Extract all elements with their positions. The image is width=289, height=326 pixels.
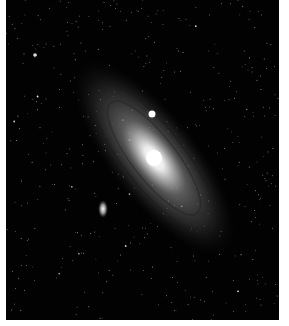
- star: [249, 279, 250, 280]
- star: [98, 272, 99, 273]
- star: [68, 2, 69, 3]
- star: [221, 3, 222, 4]
- star: [75, 232, 76, 233]
- star: [239, 162, 240, 163]
- star: [272, 228, 273, 229]
- star: [145, 63, 146, 64]
- star: [52, 131, 53, 132]
- star: [230, 81, 231, 82]
- star: [177, 282, 178, 283]
- star: [255, 250, 256, 251]
- star: [229, 86, 230, 87]
- star: [70, 246, 71, 247]
- star: [260, 299, 261, 300]
- star: [261, 305, 262, 306]
- star: [190, 297, 191, 298]
- star: [217, 53, 218, 54]
- star: [17, 38, 18, 39]
- star: [98, 49, 99, 50]
- star: [19, 128, 20, 129]
- star: [78, 253, 80, 255]
- star: [252, 259, 253, 260]
- star: [277, 296, 278, 297]
- star: [231, 132, 232, 133]
- star: [143, 270, 144, 271]
- star: [67, 153, 68, 154]
- star: [192, 319, 193, 320]
- star: [88, 16, 89, 17]
- star: [46, 43, 47, 44]
- star: [102, 22, 103, 23]
- star: [275, 284, 276, 285]
- star: [9, 16, 10, 17]
- star: [116, 203, 117, 204]
- star: [158, 304, 159, 305]
- star: [28, 239, 29, 240]
- star: [154, 42, 155, 43]
- star: [32, 266, 33, 267]
- star: [260, 198, 261, 199]
- star: [82, 163, 83, 164]
- star: [257, 80, 258, 81]
- star: [239, 142, 240, 143]
- star: [34, 228, 35, 229]
- star: [69, 200, 70, 201]
- star: [69, 185, 70, 186]
- star: [82, 155, 83, 156]
- star: [163, 70, 164, 71]
- star: [225, 179, 226, 180]
- star: [37, 96, 39, 98]
- star: [255, 190, 256, 191]
- star: [233, 311, 234, 312]
- star: [242, 66, 243, 67]
- star: [21, 238, 22, 239]
- star: [209, 14, 210, 15]
- star: [265, 180, 266, 181]
- star: [54, 184, 55, 185]
- star: [24, 290, 25, 291]
- star: [257, 280, 258, 281]
- star: [196, 125, 197, 126]
- star: [75, 188, 76, 189]
- star: [258, 194, 259, 195]
- star: [166, 295, 167, 296]
- star: [246, 109, 247, 110]
- star: [15, 231, 16, 232]
- star: [255, 217, 256, 218]
- star: [81, 235, 82, 236]
- star: [274, 303, 275, 304]
- star: [264, 115, 265, 116]
- star: [23, 63, 24, 64]
- star: [95, 196, 96, 197]
- star: [209, 107, 210, 108]
- star: [224, 148, 225, 149]
- star: [234, 98, 235, 99]
- star: [156, 14, 157, 15]
- star: [249, 57, 250, 58]
- star: [56, 278, 57, 279]
- star: [190, 92, 191, 93]
- star: [180, 71, 181, 72]
- star: [195, 260, 196, 261]
- star: [66, 7, 67, 8]
- star: [45, 169, 46, 170]
- star: [238, 166, 239, 167]
- star: [43, 47, 44, 48]
- star: [102, 292, 103, 293]
- star: [227, 128, 228, 129]
- star: [256, 298, 257, 299]
- star: [145, 38, 146, 39]
- star: [141, 294, 142, 295]
- star: [161, 77, 162, 78]
- star: [21, 179, 22, 180]
- star: [245, 304, 246, 305]
- star: [208, 145, 209, 146]
- star: [138, 57, 139, 58]
- star: [102, 29, 103, 30]
- star: [40, 19, 41, 20]
- star: [69, 148, 70, 149]
- galaxy-photo: Andromeda Galaxy: [6, 0, 279, 320]
- star: [53, 46, 54, 47]
- star: [245, 206, 246, 207]
- star: [188, 304, 189, 305]
